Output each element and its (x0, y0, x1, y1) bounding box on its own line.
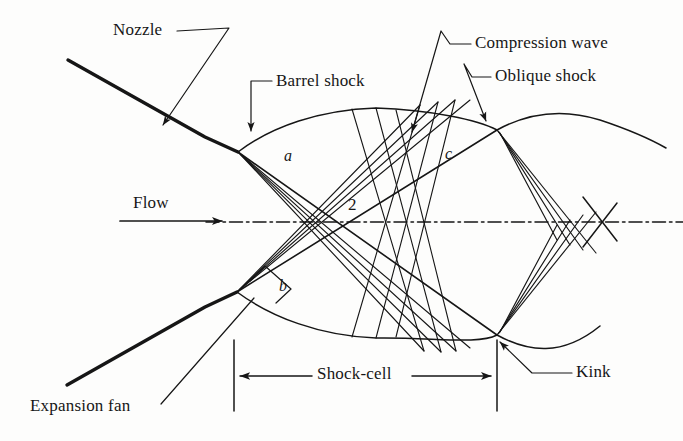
label-kink: Kink (576, 362, 611, 382)
label-barrel-shock: Barrel shock (276, 71, 365, 91)
nozzle-lower-wall (67, 292, 237, 385)
label-region-b: b (279, 277, 287, 295)
expansion-fan-leader (161, 298, 254, 404)
barrel-shock-lower (237, 292, 600, 349)
label-region-a: a (284, 147, 292, 165)
label-expansion-fan: Expansion fan (30, 396, 130, 416)
nozzle-upper-wall (68, 60, 238, 152)
compression-wave-lower-reflections (352, 100, 455, 338)
kink-fan-lower (497, 212, 596, 335)
barrel-shock-leader (251, 81, 272, 131)
figure-canvas: Nozzle Barrel shock Compression wave Obl… (0, 0, 683, 441)
nozzle-leader (163, 28, 229, 125)
label-region-c: c (445, 145, 452, 163)
compression-wave-leader (412, 31, 471, 132)
oblique-shock-leader (464, 64, 491, 121)
kink-fan-upper (497, 130, 596, 253)
label-shock-cell: Shock-cell (317, 364, 392, 384)
label-nozzle: Nozzle (113, 20, 162, 40)
label-compression-wave: Compression wave (475, 33, 608, 53)
label-oblique-shock: Oblique shock (495, 66, 596, 86)
label-region-2: 2 (348, 195, 357, 215)
label-flow: Flow (133, 193, 169, 213)
